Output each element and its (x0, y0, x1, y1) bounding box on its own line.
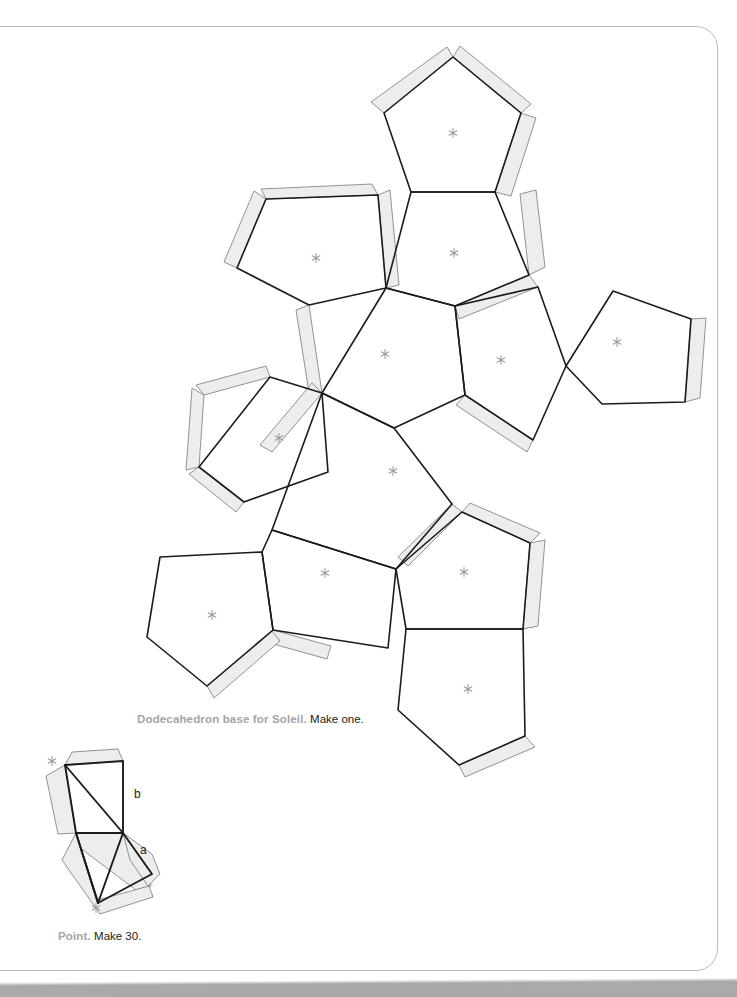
glue-tab (186, 388, 204, 470)
pentagon-face (147, 552, 273, 686)
page-root: Dodecahedron base for Soleil. Make one. … (0, 0, 737, 997)
edge-label-a: a (140, 843, 147, 857)
papercraft-artwork (0, 0, 737, 997)
pentagon-face (398, 629, 525, 765)
edge-label-b: b (134, 787, 141, 801)
pentagon-outline-group (147, 57, 691, 765)
asterisk-icon (48, 757, 56, 766)
pentagon-face (566, 291, 691, 404)
dodecahedron-caption: Dodecahedron base for Soleil. Make one. (137, 712, 364, 726)
pentagon-face (455, 287, 566, 440)
point-caption-tail: Make 30. (94, 930, 141, 942)
point-piece (46, 749, 160, 914)
point-caption-lead: Point. (58, 930, 91, 942)
point-caption: Point. Make 30. (58, 929, 141, 943)
dodecahedron-caption-tail: Make one. (310, 713, 364, 725)
dodecahedron-caption-lead: Dodecahedron base for Soleil. (137, 713, 307, 725)
glue-tab (296, 305, 322, 399)
pentagon-face (384, 57, 521, 192)
